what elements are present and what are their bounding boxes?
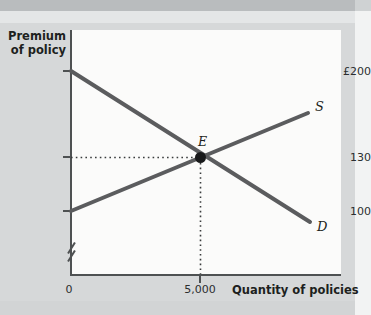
equilibrium-point-label: E (198, 134, 207, 149)
equilibrium-point-dot (195, 152, 206, 163)
figure-supply-demand-insurance: £200 130 100 0 5,000 Premium of policy Q… (0, 0, 371, 315)
demand-curve-label: D (317, 219, 327, 234)
demand-curve (71, 71, 310, 222)
supply-curve-label: S (315, 99, 324, 114)
curve-layer (0, 0, 371, 315)
